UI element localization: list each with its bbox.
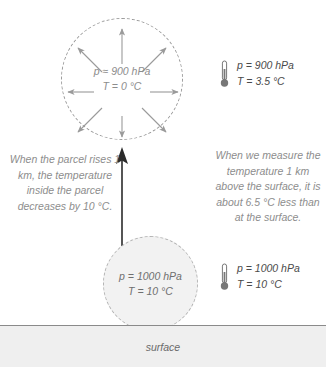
upper-readout-values: p = 900 hPa T = 3.5 °C — [237, 58, 294, 89]
upper-parcel-temperature: T = 0 °C — [103, 79, 142, 94]
surface-label: surface — [146, 341, 180, 353]
lower-readout-temperature: T = 10 °C — [237, 277, 300, 293]
lower-parcel-temperature: T = 10 °C — [128, 284, 173, 299]
environmental-lapse-note: When we measure the temperature 1 km abo… — [212, 148, 324, 226]
lower-parcel-pressure: p = 1000 hPa — [119, 269, 182, 284]
parcel-diagram: p ≈ 900 hPa T = 0 °C p = 1000 hPa T = 10… — [0, 0, 326, 367]
upper-readout-pressure: p = 900 hPa — [237, 58, 294, 74]
thermometer-icon — [219, 59, 230, 89]
parcel-cooling-note: When the parcel rises 1 km, the temperat… — [6, 152, 124, 214]
upper-readout-temperature: T = 3.5 °C — [237, 74, 294, 90]
thermometer-icon — [219, 262, 230, 292]
upper-parcel-pressure: p ≈ 900 hPa — [94, 64, 151, 79]
lower-readout-values: p = 1000 hPa T = 10 °C — [237, 261, 300, 292]
upper-measurement-readout: p = 900 hPa T = 3.5 °C — [219, 58, 294, 89]
lower-readout-pressure: p = 1000 hPa — [237, 261, 300, 277]
lower-measurement-readout: p = 1000 hPa T = 10 °C — [219, 261, 300, 292]
lower-air-parcel: p = 1000 hPa T = 10 °C — [103, 236, 198, 331]
surface-band: surface — [0, 325, 326, 367]
